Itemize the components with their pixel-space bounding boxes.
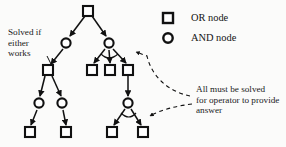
or-node-n11 [25,127,35,137]
or-node-n4 [43,65,53,75]
legend-and-node-label: AND node [191,32,236,43]
diagram-canvas: Solved if either works All must be solve… [0,0,286,147]
and-or-tree-graphic [0,0,286,147]
edge-n10-n14 [131,109,141,125]
edge-n1-n2 [70,16,85,36]
edge-n3-n6 [109,50,110,63]
left-pointer-line [47,56,51,64]
edge-n4-n8 [40,76,45,96]
legend-or-square-icon [163,13,173,23]
or-node-n14 [138,127,148,137]
edge-n4-n9 [52,76,61,96]
edge-n10-n13 [114,109,125,125]
or-node-n6 [105,65,115,75]
and-node-n9 [57,98,66,107]
callout-pointers [47,52,192,116]
legend-and-circle-icon [163,33,172,42]
right-pointer-upper [136,52,190,96]
and-node-n3 [104,38,113,47]
or-node-n12 [61,127,71,137]
or-node-n7 [123,65,133,75]
annotation-right-text: All must be solved for operator to provi… [196,84,279,116]
edge-n8-n11 [31,110,37,125]
edge-n2-n4 [51,49,63,64]
edge-n9-n12 [63,110,66,125]
or-node-n1 [83,6,93,16]
annotation-left-text: Solved if either works [8,27,41,59]
legend-or-node-label: OR node [191,12,228,23]
or-node-n13 [107,127,117,137]
and-node-n2 [61,38,70,47]
right-pointer-lower [150,104,192,116]
and-node-n10 [123,98,132,107]
or-node-n5 [87,65,97,75]
legend-glyphs [163,13,173,43]
and-node-n8 [34,98,43,107]
edge-n1-n3 [92,16,106,36]
